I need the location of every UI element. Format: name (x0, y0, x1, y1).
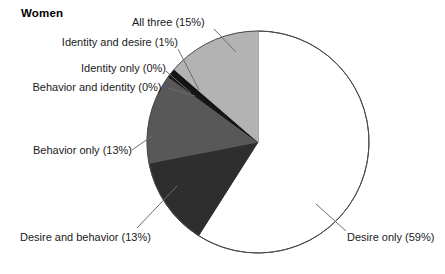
pie-label-identity-only: Identity only (0%) (56, 62, 166, 75)
pie-label-all-three: All three (15%) (132, 16, 244, 29)
pie-chart-figure: Women All three (15%) Identity and desir… (0, 0, 445, 274)
pie-label-desire-only: Desire only (59%) (347, 231, 443, 244)
pie-label-behavior-and-identity: Behavior and identity (0%) (26, 81, 168, 94)
pie-label-behavior-only: Behavior only (13%) (14, 144, 132, 157)
pie-label-identity-and-desire: Identity and desire (1%) (46, 36, 178, 49)
pie-label-desire-and-behavior: Desire and behavior (13%) (20, 231, 174, 244)
